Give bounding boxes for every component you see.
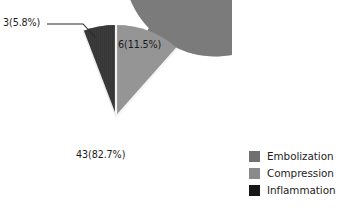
legend-label-compression: Compression [267, 168, 334, 178]
legend-item-compression[interactable]: Compression [249, 165, 347, 182]
legend-item-embolization[interactable]: Embolization [249, 148, 347, 165]
slice-data-label-inflammation: 3(5.8%) [3, 18, 40, 28]
slice-data-label-embolization: 43(82.7%) [76, 150, 125, 160]
legend-label-embolization: Embolization [267, 151, 334, 161]
legend-item-inflammation[interactable]: Inflammation [249, 182, 347, 199]
slice-data-label-compression: 6(11.5%) [118, 40, 161, 50]
legend-swatch-icon-compression [249, 168, 260, 179]
pie-plot-area: 6(11.5%) 43(82.7%) 3(5.8%) [0, 0, 232, 220]
legend-swatch-icon-embolization [249, 151, 260, 162]
legend-swatch-icon-inflammation [249, 185, 260, 196]
pie-svg [0, 0, 232, 220]
legend-label-inflammation: Inflammation [267, 185, 335, 195]
pie-chart-figure: 6(11.5%) 43(82.7%) 3(5.8%) Embolization … [0, 0, 347, 220]
chart-legend: Embolization Compression Inflammation [249, 148, 347, 199]
